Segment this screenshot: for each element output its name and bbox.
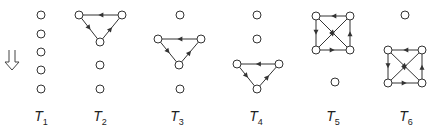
vertex-node [346,46,354,54]
label-subscript: 5 [335,117,340,127]
arrowhead-icon [348,31,353,36]
vertex-node [37,30,45,38]
vertex-node [37,11,45,19]
panel-t6-edges [386,48,425,86]
vertex-node [418,79,426,87]
vertex-node [312,12,320,20]
panel-label-t2: T2 [93,108,107,127]
label-subscript: 4 [258,117,263,127]
panel-t2-nodes [75,11,126,93]
panel-label-t1: T1 [34,108,48,127]
vertex-node [384,46,392,54]
panel-t6-nodes [384,11,426,87]
label-subscript: 2 [102,117,107,127]
double-down-arrow-icon [5,50,19,70]
panel-t5-nodes [312,12,354,86]
label-subscript: 6 [408,117,413,127]
tournament-diagram [0,0,430,130]
panel-label-t6: T6 [399,108,413,127]
vertex-node [96,85,104,93]
arrowhead-icon [177,37,182,42]
vertex-node [96,61,104,69]
arrowhead-icon [98,13,103,18]
arrowhead-icon [403,48,408,53]
arrowhead-icon [331,14,336,19]
label-subscript: 3 [179,117,184,127]
vertex-node [75,11,83,19]
panel-label-t4: T4 [249,108,263,127]
arrowhead-icon [330,48,335,53]
label-main: T [170,108,179,124]
vertex-node [401,11,409,19]
label-main: T [326,108,335,124]
panel-t3-edges [161,37,199,62]
edges-layer [81,13,424,86]
panel-t3-nodes [154,11,205,93]
vertex-node [37,66,45,74]
vertex-node [154,35,162,43]
arrowhead-icon [256,62,261,67]
arrowhead-icon [402,81,407,86]
panel-t1-nodes [37,11,45,93]
vertex-node [331,78,339,86]
panel-t5-edges [314,14,353,53]
vertex-node [275,60,283,68]
vertex-node [253,85,261,93]
vertex-node [96,38,104,46]
label-main: T [399,108,408,124]
vertex-node [346,12,354,20]
vertex-node [37,48,45,56]
vertex-node [197,35,205,43]
label-main: T [249,108,258,124]
vertex-node [253,35,261,43]
vertex-node [312,46,320,54]
label-subscript: 1 [43,117,48,127]
vertex-node [118,11,126,19]
vertex-node [384,79,392,87]
panel-t2-edges [81,13,119,39]
panel-t4-edges [239,62,276,86]
arrowhead-icon [386,63,391,68]
label-main: T [34,108,43,124]
panel-t4-nodes [233,11,283,93]
arrowhead-icon [314,30,319,35]
vertex-node [37,85,45,93]
vertex-node [233,60,241,68]
vertex-node [418,46,426,54]
vertex-node [176,85,184,93]
arrowhead-icon [420,65,425,70]
panel-label-t3: T3 [170,108,184,127]
vertex-node [253,11,261,19]
label-main: T [93,108,102,124]
arrowhead-icon [86,24,91,29]
double-down-arrow-icon [5,50,19,70]
nodes-layer [37,11,426,93]
panel-label-t5: T5 [326,108,340,127]
vertex-node [176,11,184,19]
vertex-node [175,61,183,69]
